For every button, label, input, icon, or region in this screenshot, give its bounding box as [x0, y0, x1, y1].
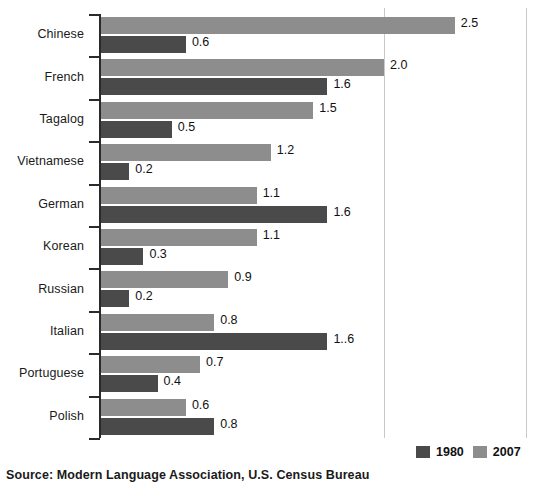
bar-2007[interactable] [101, 229, 257, 246]
bar-2007[interactable] [101, 59, 384, 76]
bar-1980[interactable] [101, 375, 158, 392]
bar-value-1980: 0.2 [135, 162, 152, 176]
bar-value-2007: 1.2 [277, 143, 294, 157]
source-note: Source: Modern Language Association, U.S… [6, 468, 369, 482]
bar-group: French2.01.6 [0, 56, 544, 98]
bar-value-1980: 0.8 [220, 417, 237, 431]
bar-2007[interactable] [101, 187, 257, 204]
legend-item-1980[interactable]: 1980 [416, 445, 464, 459]
bar-1980[interactable] [101, 248, 143, 265]
bar-group: Russian0.90.2 [0, 268, 544, 310]
bar-group: Portuguese0.70.4 [0, 353, 544, 395]
legend-swatch-1980-icon [416, 446, 430, 458]
category-label: Polish [0, 409, 84, 423]
bar-1980[interactable] [101, 206, 327, 223]
legend-swatch-2007-icon [473, 446, 487, 458]
bar-1980[interactable] [101, 121, 172, 138]
bar-1980[interactable] [101, 78, 327, 95]
bar-value-1980: 0.3 [149, 247, 166, 261]
bar-value-1980: 0.2 [135, 289, 152, 303]
bar-group: Vietnamese1.20.2 [0, 141, 544, 183]
bar-1980[interactable] [101, 290, 129, 307]
bar-2007[interactable] [101, 17, 455, 34]
category-label: French [0, 70, 84, 84]
bar-value-2007: 1.1 [263, 186, 280, 200]
category-label: Vietnamese [0, 154, 84, 168]
bar-value-2007: 0.9 [234, 270, 251, 284]
category-label: Chinese [0, 27, 84, 41]
bar-1980[interactable] [101, 36, 186, 53]
legend-label-1980: 1980 [436, 445, 464, 459]
bar-group: Korean1.10.3 [0, 226, 544, 268]
bar-value-2007: 1.5 [319, 101, 336, 115]
axis-tick [89, 438, 100, 440]
bar-2007[interactable] [101, 356, 200, 373]
bar-value-2007: 0.6 [192, 398, 209, 412]
bar-value-1980: 0.5 [178, 120, 195, 134]
category-label: German [0, 197, 84, 211]
bar-value-1980: 1.6 [333, 77, 350, 91]
bar-chart: Chinese2.50.6French2.01.6Tagalog1.50.5Vi… [0, 0, 544, 483]
bar-value-2007: 0.8 [220, 313, 237, 327]
bar-2007[interactable] [101, 144, 271, 161]
bar-group: Polish0.60.8 [0, 396, 544, 438]
category-label: Portuguese [0, 366, 84, 380]
bar-1980[interactable] [101, 333, 327, 350]
bar-value-1980: 0.6 [192, 35, 209, 49]
bar-group: German1.11.6 [0, 184, 544, 226]
bar-value-2007: 0.7 [206, 355, 223, 369]
bar-group: Italian0.81..6 [0, 311, 544, 353]
chart-legend: 1980 2007 [416, 444, 521, 460]
category-label: Korean [0, 239, 84, 253]
bar-1980[interactable] [101, 163, 129, 180]
bar-value-2007: 2.5 [461, 16, 478, 30]
plot-area: Chinese2.50.6French2.01.6Tagalog1.50.5Vi… [0, 0, 544, 440]
bar-value-2007: 2.0 [390, 58, 407, 72]
bar-value-1980: 1.6 [333, 205, 350, 219]
bar-1980[interactable] [101, 418, 214, 435]
legend-label-2007: 2007 [493, 445, 521, 459]
bar-group: Chinese2.50.6 [0, 14, 544, 56]
bar-group: Tagalog1.50.5 [0, 99, 544, 141]
bar-value-1980: 1..6 [333, 332, 354, 346]
bar-2007[interactable] [101, 102, 313, 119]
category-label: Tagalog [0, 112, 84, 126]
bar-2007[interactable] [101, 271, 228, 288]
bar-value-1980: 0.4 [164, 374, 181, 388]
bar-2007[interactable] [101, 314, 214, 331]
legend-item-2007[interactable]: 2007 [473, 445, 521, 459]
category-label: Italian [0, 324, 84, 338]
bar-2007[interactable] [101, 399, 186, 416]
bar-value-2007: 1.1 [263, 228, 280, 242]
category-label: Russian [0, 282, 84, 296]
